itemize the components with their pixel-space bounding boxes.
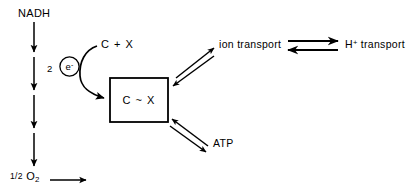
proton-charge: + <box>353 38 358 47</box>
half-oxygen-subscript: 2 <box>35 175 40 184</box>
label-half-oxygen: 1/2 O2 <box>10 171 40 184</box>
ion-transport-double-arrow <box>173 48 214 86</box>
label-proton-transport: H+ transport <box>345 39 405 50</box>
diagram-vector-layer <box>0 0 417 195</box>
half-oxygen-fraction: 1/2 <box>10 171 23 181</box>
atp-arrow-out <box>172 119 208 146</box>
electron-circle <box>60 57 79 76</box>
equilibrium-arrows <box>288 41 338 50</box>
half-oxygen-symbol: O <box>26 170 35 182</box>
label-electron-count: 2 <box>47 64 53 74</box>
label-atp: ATP <box>213 138 234 149</box>
label-ion-transport: ion transport <box>219 39 281 50</box>
atp-arrow-in <box>170 126 206 152</box>
proton-transport-word: transport <box>361 38 405 50</box>
diagram-canvas: NADH 1/2 O2 2 e- C + X C ~ X ion transpo… <box>0 0 417 195</box>
label-nadh: NADH <box>18 8 50 19</box>
label-substrate-free: C + X <box>101 39 134 50</box>
atp-double-arrow <box>170 119 208 152</box>
proton-symbol: H <box>345 38 353 50</box>
ion-transport-arrow-out <box>176 48 214 78</box>
reaction-box <box>110 78 168 122</box>
ion-transport-arrow-in <box>173 56 214 86</box>
substrate-curved-arrow <box>80 46 104 98</box>
